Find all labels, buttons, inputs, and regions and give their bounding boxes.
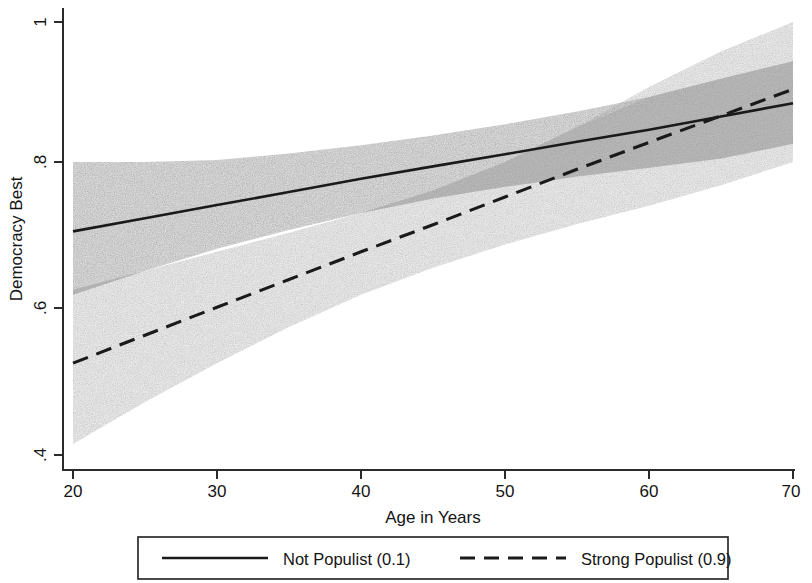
x-tick-label-50: 50 (496, 482, 515, 501)
legend-label-strong-populist: Strong Populist (0.9) (581, 550, 731, 568)
democracy-best-by-age-chart: 1 .8 .6 .4 Democracy Best 20 30 40 50 60… (0, 0, 812, 583)
y-tick-label-1: 1 (31, 17, 50, 26)
y-axis-tick-labels: 1 .8 .6 .4 (31, 17, 50, 462)
y-tick-label-06: .6 (31, 301, 50, 315)
x-tick-label-60: 60 (640, 482, 659, 501)
x-tick-label-70: 70 (782, 482, 801, 501)
y-tick-label-04: .4 (31, 448, 50, 462)
y-axis-title: Democracy Best (7, 176, 26, 301)
x-axis-ticks (73, 470, 793, 479)
legend-label-not-populist: Not Populist (0.1) (283, 550, 410, 568)
y-axis-ticks (54, 22, 63, 455)
x-tick-label-40: 40 (352, 482, 371, 501)
chart-figure: 1 .8 .6 .4 Democracy Best 20 30 40 50 60… (0, 0, 812, 583)
x-axis-tick-labels: 20 30 40 50 60 70 (64, 482, 801, 501)
y-tick-label-08: .8 (31, 155, 50, 169)
x-tick-label-20: 20 (64, 482, 83, 501)
chart-legend: Not Populist (0.1) Strong Populist (0.9) (138, 537, 731, 579)
x-tick-label-30: 30 (208, 482, 227, 501)
x-axis-title: Age in Years (385, 508, 480, 527)
